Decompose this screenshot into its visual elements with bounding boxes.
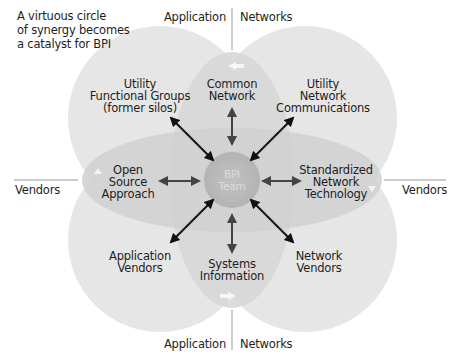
axis-label-top-right: Networks xyxy=(240,11,310,23)
node-open-source-approach: Open Source Approach xyxy=(98,164,158,200)
node-standardized-network-technology: Standardized Network Technology xyxy=(286,164,386,200)
axis-label-left: Vendors xyxy=(15,184,65,196)
node-utility-network-communications: Utility Network Communications xyxy=(268,78,378,114)
node-utility-functional-groups: Utility Functional Groups (former silos) xyxy=(85,78,195,114)
node-network-vendors: Network Vendors xyxy=(284,250,354,274)
axis-label-top-left: Application xyxy=(160,11,226,23)
diagram-caption: A virtuous circle of synergy becomes a c… xyxy=(17,9,130,51)
node-common-network: Common Network xyxy=(197,78,267,102)
axis-label-bottom-left: Application xyxy=(160,338,226,350)
axis-label-bottom-right: Networks xyxy=(240,338,310,350)
node-systems-information: Systems Information xyxy=(192,258,272,282)
node-application-vendors: Application Vendors xyxy=(100,250,180,274)
axis-label-right: Vendors xyxy=(402,184,452,196)
center-label-bpi-team: BPI Team xyxy=(207,168,257,192)
